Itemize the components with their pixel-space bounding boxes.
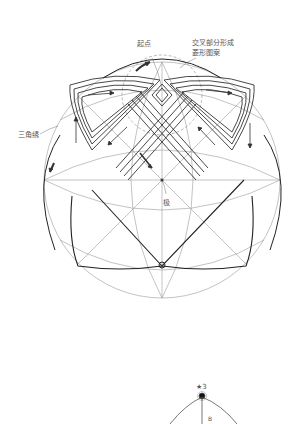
pole-dot: [161, 179, 164, 182]
small-diagram: [170, 392, 237, 424]
intersection-label-line1: 交叉部分形成: [192, 39, 234, 48]
start-point-label: 起点: [137, 40, 151, 49]
intersection-label-line2: 菱形图案: [192, 49, 220, 58]
side-note-label: B: [208, 414, 212, 423]
star-marker-label: ★3: [196, 383, 207, 392]
temari-diagram: [0, 0, 296, 424]
triangle-stitch-label: 三角绣: [18, 131, 39, 140]
pole-label: 极: [163, 199, 170, 208]
